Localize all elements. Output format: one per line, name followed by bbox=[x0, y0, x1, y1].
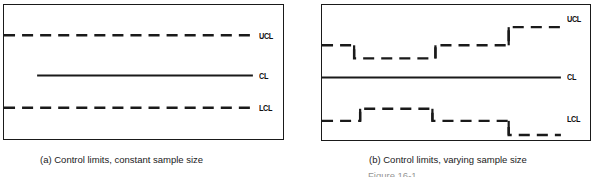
figure-container: UCL CL LCL UCL CL LCL (a) Control limits… bbox=[0, 0, 603, 177]
panel-b-caption: (b) Control limits, varying sample size bbox=[369, 155, 527, 165]
panel-b-plot bbox=[322, 5, 590, 140]
panel-b-lcl-label: LCL bbox=[567, 115, 580, 124]
panel-b-lcl-step-path bbox=[322, 109, 561, 135]
panel-a-caption: (a) Control limits, constant sample size bbox=[40, 155, 203, 165]
panel-b-cl-label: CL bbox=[567, 73, 576, 82]
panel-b-control-chart: UCL CL LCL bbox=[321, 4, 591, 141]
panel-b-ucl-step-path bbox=[322, 27, 561, 58]
panel-a-cl-label: CL bbox=[259, 72, 268, 81]
panel-b-ucl-label: UCL bbox=[567, 15, 581, 24]
panel-a-lcl-label: LCL bbox=[259, 104, 272, 113]
panel-a-control-chart: UCL CL LCL bbox=[3, 4, 284, 140]
panel-a-plot bbox=[4, 5, 283, 139]
panel-a-ucl-label: UCL bbox=[259, 32, 273, 41]
figure-number-clipped: Figure 16-1 bbox=[368, 171, 417, 177]
